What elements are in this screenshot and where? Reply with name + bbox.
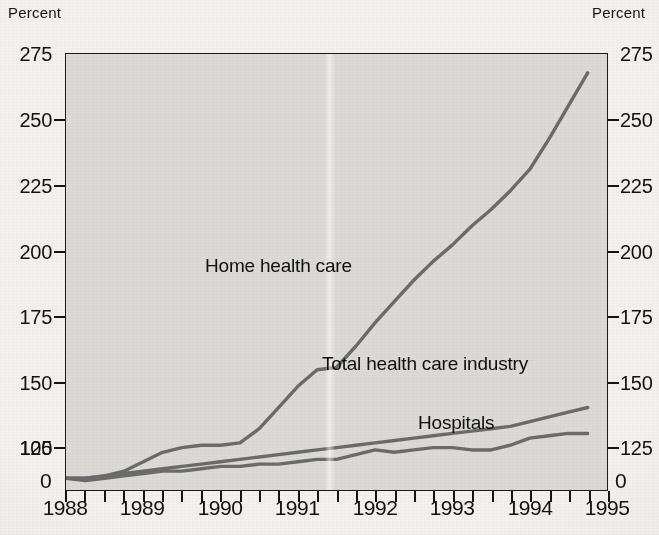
- x-tick-label: 1990: [183, 497, 257, 518]
- y-axis-zero-left: 0: [40, 470, 52, 491]
- x-tick-label: 1992: [338, 497, 412, 518]
- series-label-home-health-care: Home health care: [205, 256, 352, 275]
- y-tick-label-right: 250: [620, 110, 659, 130]
- series-label-hospitals: Hospitals: [418, 413, 494, 432]
- y-tick-right: [608, 316, 619, 318]
- y-tick-left: [54, 447, 65, 449]
- y-tick-label-right: 275: [620, 44, 659, 64]
- y-tick-right: [608, 119, 619, 121]
- y-tick-label-left: 175: [0, 307, 52, 327]
- chart-figure: CHAPTER 4 HEALTH CARE increase in cost p…: [0, 0, 659, 535]
- y-tick-label-left: 275: [0, 44, 52, 64]
- x-tick-label: 1991: [260, 497, 334, 518]
- y-tick-left: [54, 251, 65, 253]
- y-tick-left: [54, 119, 65, 121]
- x-tick-label: 1989: [105, 497, 179, 518]
- y-tick-label-right: 150: [620, 373, 659, 393]
- y-tick-left: [54, 316, 65, 318]
- series-line: [66, 433, 588, 480]
- y-tick-label-left: 100: [0, 438, 52, 458]
- y-tick-right: [608, 382, 619, 384]
- y-tick-left: [54, 185, 65, 187]
- y-axis-zero-right: 0: [615, 470, 627, 491]
- x-tick-label: 1995: [570, 497, 644, 518]
- x-tick-label: 1988: [28, 497, 102, 518]
- y-axis-unit-left: Percent: [8, 4, 61, 21]
- series-line: [66, 408, 588, 479]
- y-tick-left: [54, 382, 65, 384]
- y-tick-label-right: 175: [620, 307, 659, 327]
- y-tick-label-right: 200: [620, 242, 659, 262]
- y-axis-unit-right: Percent: [592, 4, 645, 21]
- y-tick-right: [608, 447, 619, 449]
- y-tick-label-left: 150: [0, 373, 52, 393]
- y-tick-right: [608, 185, 619, 187]
- y-tick-right: [608, 251, 619, 253]
- series-label-total-health-care-industry: Total health care industry: [322, 354, 528, 373]
- x-tick-label: 1993: [415, 497, 489, 518]
- y-tick-label-left: 250: [0, 110, 52, 130]
- y-tick-label-right: 125: [620, 438, 659, 458]
- x-tick-label: 1994: [493, 497, 567, 518]
- y-tick-label-left: 200: [0, 242, 52, 262]
- y-tick-label-right: 225: [620, 176, 659, 196]
- y-tick-label-left: 225: [0, 176, 52, 196]
